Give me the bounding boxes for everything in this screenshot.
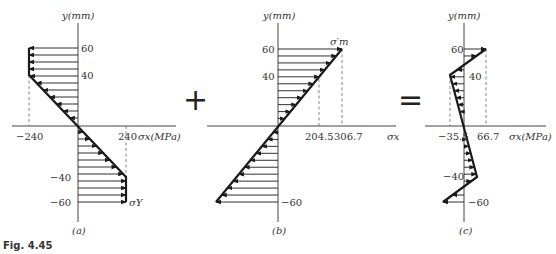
panel-b-tick-306: 306.7: [334, 131, 363, 142]
panel-a-x-axis-label: σx(MPa): [138, 131, 181, 142]
panel-a-tick-neg40: −40: [50, 172, 71, 183]
panel-c-tick-60: 60: [451, 44, 464, 55]
panel-a-yield-stress-label: σY: [129, 197, 144, 208]
panel-c-tick-neg60: −60: [468, 197, 489, 208]
figure-canvas: y(mm) 60 40 −40 −60 −240 240 σx(MPa) σY …: [0, 0, 556, 254]
panel-a-tick-neg240: −240: [16, 131, 43, 142]
panel-c-x-axis-label: σx(MPa): [509, 131, 552, 142]
panel-c-tick-neg40: −40: [443, 171, 464, 182]
plus-operator: +: [183, 82, 208, 117]
panel-a: y(mm) 60 40 −40 −60 −240 240 σx(MPa) σY …: [12, 10, 181, 236]
equals-operator: =: [398, 82, 423, 117]
panel-c-y-axis-label: y(mm): [447, 10, 481, 21]
figure-caption: Fig. 4.45: [3, 240, 52, 251]
panel-c-label: (c): [459, 225, 473, 236]
panel-a-tick-neg60: −60: [50, 197, 71, 208]
panel-b-tick-neg60: −60: [281, 197, 302, 208]
panel-b-tick-204: 204.5: [305, 131, 334, 142]
panel-a-tick-60: 60: [81, 43, 94, 54]
panel-b-tick-40: 40: [262, 71, 275, 82]
panel-a-tick-240: 240: [118, 131, 137, 142]
panel-a-label: (a): [72, 225, 86, 236]
panel-b-y-axis-label: y(mm): [262, 10, 296, 21]
panel-b-max-stress-label: σ′m: [330, 36, 349, 47]
panel-a-y-axis-label: y(mm): [61, 10, 95, 21]
panel-b: y(mm) 60 40 −60 204.5 306.7 σx σ′m (b): [207, 10, 400, 236]
panel-b-tick-60: 60: [262, 44, 275, 55]
panel-c-tick-40: 40: [469, 71, 482, 82]
panel-c-tick-neg35: −35.5: [438, 131, 469, 142]
panel-c-tick-66: 66.7: [477, 131, 499, 142]
panel-b-label: (b): [272, 225, 286, 236]
panel-c: y(mm) 60 40 −40 −60 −35.5 66.7 σx(MPa) (…: [425, 10, 552, 236]
panel-b-x-axis-label: σx: [387, 131, 400, 142]
panel-a-tick-40: 40: [81, 70, 94, 81]
